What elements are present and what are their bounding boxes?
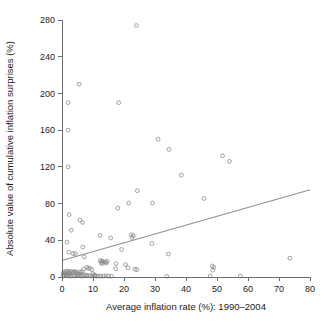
- y-tick-label: 40: [45, 235, 55, 245]
- data-point: [166, 252, 170, 256]
- data-point: [116, 206, 120, 210]
- data-point: [66, 165, 70, 169]
- y-tick-label: 240: [40, 52, 55, 62]
- x-tick-label: 0: [59, 284, 64, 294]
- y-tick-label: 160: [40, 125, 55, 135]
- data-point: [114, 267, 118, 271]
- data-point: [135, 189, 139, 193]
- data-point: [69, 228, 73, 232]
- x-tick-label: 40: [181, 284, 191, 294]
- axes-group: [58, 20, 310, 281]
- regression-line: [62, 190, 310, 261]
- x-axis-title: Average inflation rate (%): 1990–2004: [106, 301, 266, 312]
- x-tick-label: 50: [212, 284, 222, 294]
- data-point: [67, 213, 71, 217]
- data-point: [135, 24, 139, 28]
- data-point: [288, 256, 292, 260]
- y-tick-label: 0: [50, 272, 55, 282]
- data-point: [120, 248, 124, 252]
- trend-line: [62, 190, 310, 261]
- scatter-plot-figure: 0408012016020024028001020304050607080 Av…: [0, 0, 329, 326]
- data-point: [117, 101, 121, 105]
- data-point: [65, 240, 69, 244]
- x-tick-label: 70: [274, 284, 284, 294]
- x-tick-label: 60: [243, 284, 253, 294]
- data-point: [151, 201, 155, 205]
- axis-tick-labels-group: 0408012016020024028001020304050607080: [40, 15, 315, 293]
- data-point: [156, 137, 160, 141]
- data-point: [127, 201, 131, 205]
- data-point: [165, 274, 169, 278]
- data-point: [179, 173, 183, 177]
- y-tick-label: 120: [40, 162, 55, 172]
- data-point: [114, 262, 118, 266]
- plot-canvas: 0408012016020024028001020304050607080 Av…: [0, 0, 329, 326]
- data-point: [77, 82, 81, 86]
- data-point: [98, 233, 102, 237]
- data-point: [202, 197, 206, 201]
- data-point: [81, 220, 85, 224]
- data-point: [66, 128, 70, 132]
- y-tick-label: 80: [45, 199, 55, 209]
- data-point: [67, 250, 71, 254]
- data-point: [109, 236, 113, 240]
- data-point: [150, 242, 154, 246]
- x-tick-label: 30: [150, 284, 160, 294]
- y-tick-label: 280: [40, 15, 55, 25]
- x-tick-label: 10: [88, 284, 98, 294]
- y-tick-label: 200: [40, 89, 55, 99]
- data-point: [167, 148, 171, 152]
- data-point: [126, 266, 130, 270]
- x-tick-label: 80: [305, 284, 315, 294]
- data-point: [228, 159, 232, 163]
- data-point: [81, 245, 85, 249]
- data-point: [82, 255, 86, 259]
- y-axis-title: Absolute value of cumulative inflation s…: [4, 41, 15, 256]
- data-point: [66, 101, 70, 105]
- data-point: [221, 154, 225, 158]
- data-points-group: [61, 24, 292, 279]
- x-tick-label: 20: [119, 284, 129, 294]
